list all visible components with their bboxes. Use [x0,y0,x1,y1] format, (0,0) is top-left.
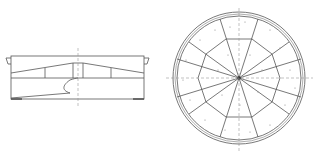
right-lug [144,58,149,64]
elevation-outline [11,56,144,99]
tapered-top-profile [11,63,144,73]
left-lug [6,58,11,64]
plan-view [166,8,313,152]
technical-drawing [0,0,316,157]
cutaway-curve [11,78,78,98]
side-elevation-view [6,48,149,106]
